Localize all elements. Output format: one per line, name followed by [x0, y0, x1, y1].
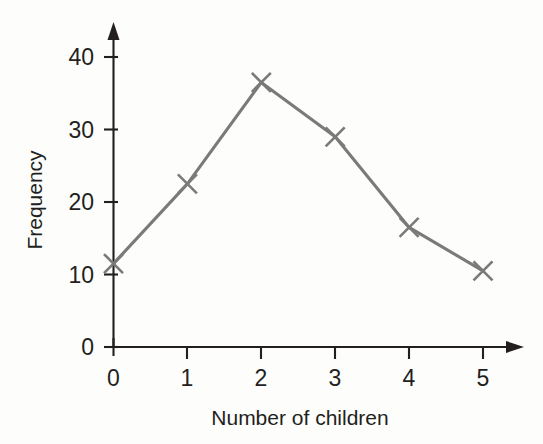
x-tick-label-1: 1	[181, 365, 194, 391]
frequency-line-chart: 40 30 20 10 0 0 1 2 3 4 5 Frequency Numb…	[0, 0, 543, 444]
x-axis-title: Number of children	[211, 406, 388, 429]
y-tick-label-20: 20	[68, 189, 94, 215]
y-tick-label-40: 40	[68, 44, 94, 70]
series-line-frequency	[114, 82, 484, 271]
x-tick-label-4: 4	[403, 365, 416, 391]
data-series-frequency	[104, 73, 493, 281]
y-axis-arrow-icon	[108, 22, 120, 40]
data-point-marker	[252, 73, 271, 92]
data-point-marker	[474, 261, 493, 280]
x-tick-label-3: 3	[329, 365, 342, 391]
y-tick-label-10: 10	[68, 262, 94, 288]
y-tick-label-0: 0	[81, 334, 94, 360]
x-axis-arrow-icon	[506, 341, 524, 353]
y-axis-title: Frequency	[23, 150, 46, 250]
x-tick-label-0: 0	[107, 365, 120, 391]
data-point-marker	[400, 218, 419, 237]
series-markers	[104, 73, 493, 281]
x-tick-label-2: 2	[255, 365, 268, 391]
data-point-marker	[326, 127, 345, 146]
chart-svg: 40 30 20 10 0 0 1 2 3 4 5 Frequency Numb…	[0, 0, 543, 444]
y-tick-label-30: 30	[68, 117, 94, 143]
data-point-marker	[178, 174, 197, 193]
x-tick-label-5: 5	[477, 365, 490, 391]
